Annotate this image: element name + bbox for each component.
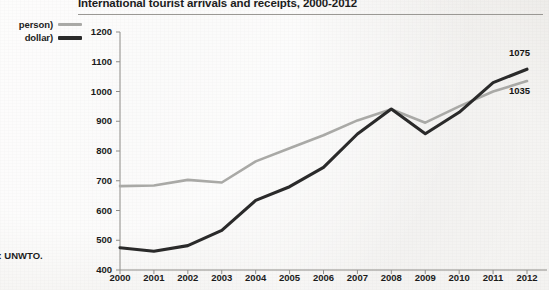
y-axis-tick-label: 900 <box>78 115 112 126</box>
y-axis-tick-label: 600 <box>78 205 112 216</box>
y-axis-tick-label: 1100 <box>78 56 112 67</box>
y-axis-tick-label: 500 <box>78 234 112 245</box>
y-axis-tick-label: 1200 <box>78 26 112 37</box>
end-label-receipts: 1075 <box>509 47 530 58</box>
chart-plot-area: 4005006007008009001000110012002000200120… <box>0 0 549 290</box>
series-line-arrivals <box>120 81 527 186</box>
y-axis-tick-label: 700 <box>78 175 112 186</box>
y-axis-tick-label: 800 <box>78 145 112 156</box>
series-line-receipts <box>120 69 527 251</box>
x-axis-tick-label: 2012 <box>505 272 549 283</box>
end-label-arrivals: 1035 <box>509 85 530 96</box>
y-axis-tick-label: 1000 <box>78 86 112 97</box>
